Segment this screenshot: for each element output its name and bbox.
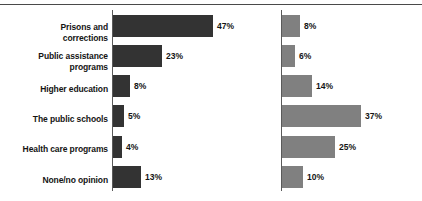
category-label-line1: Health care programs (0, 144, 108, 155)
bar-value-label: 37% (361, 105, 382, 127)
bar-none-no-opinion (282, 166, 303, 188)
bar-public-assistance-programs (282, 45, 295, 67)
bar-row: 8% (282, 15, 316, 37)
category-label-prisons-and-corrections: Prisons and corrections (0, 22, 108, 43)
bar-value-label: 14% (312, 75, 333, 97)
category-label-line1: Public assistance (0, 51, 108, 62)
bar-row: 4% (113, 136, 138, 158)
bar-row: 5% (113, 105, 140, 127)
bar-row: 14% (282, 75, 333, 97)
bar-higher-education (282, 75, 312, 97)
bar-row: 47% (113, 15, 234, 37)
bar-health-care-programs (282, 136, 335, 158)
bar-prisons-and-corrections (113, 15, 213, 37)
left-chart-panel: Prisons and corrections Public assistanc… (0, 10, 268, 195)
bar-value-label: 8% (300, 15, 316, 37)
bar-row: 37% (282, 105, 382, 127)
bar-prisons-and-corrections (282, 15, 300, 37)
bar-row: 8% (113, 75, 146, 97)
bar-the-public-schools (282, 105, 361, 127)
category-label-none-no-opinion: None/no opinion (0, 175, 108, 186)
bar-value-label: 4% (122, 136, 138, 158)
left-plot-area: 47% 23% 8% 5% 4% 13% (113, 10, 268, 191)
category-label-line2: corrections (0, 33, 108, 44)
bar-value-label: 10% (303, 166, 324, 188)
category-label-higher-education: Higher education (0, 84, 108, 95)
bar-row: 13% (113, 166, 162, 188)
category-label-the-public-schools: The public schools (0, 114, 108, 125)
category-label-line1: Higher education (0, 84, 108, 95)
category-label-column: Prisons and corrections Public assistanc… (0, 10, 108, 195)
bar-value-label: 23% (162, 45, 183, 67)
category-label-line1: The public schools (0, 114, 108, 125)
dual-bar-chart-figure: Prisons and corrections Public assistanc… (0, 0, 422, 201)
bar-row: 10% (282, 166, 324, 188)
bar-none-no-opinion (113, 166, 141, 188)
bar-higher-education (113, 75, 130, 97)
bar-health-care-programs (113, 136, 122, 158)
category-label-public-assistance-programs: Public assistance programs (0, 51, 108, 72)
right-chart-panel: 8% 6% 14% 37% 25% 10% (268, 10, 422, 195)
category-label-line2: programs (0, 62, 108, 73)
category-label-health-care-programs: Health care programs (0, 144, 108, 155)
bar-value-label: 6% (295, 45, 311, 67)
bar-value-label: 13% (141, 166, 162, 188)
bar-value-label: 5% (124, 105, 140, 127)
bar-the-public-schools (113, 105, 124, 127)
top-divider-rule (0, 4, 422, 5)
category-label-line1: None/no opinion (0, 175, 108, 186)
bar-public-assistance-programs (113, 45, 162, 67)
category-label-line1: Prisons and (0, 22, 108, 33)
bar-value-label: 47% (213, 15, 234, 37)
bar-value-label: 8% (130, 75, 146, 97)
bar-row: 25% (282, 136, 356, 158)
right-plot-area: 8% 6% 14% 37% 25% 10% (282, 10, 422, 191)
bar-row: 23% (113, 45, 183, 67)
bar-row: 6% (282, 45, 311, 67)
bar-value-label: 25% (335, 136, 356, 158)
